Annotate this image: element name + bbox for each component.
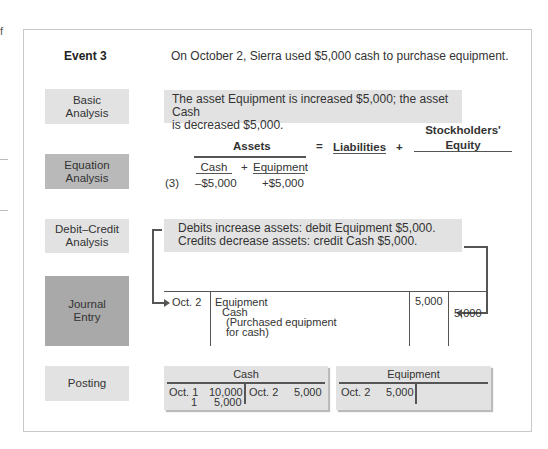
liabilities-header: Liabilities (333, 141, 386, 154)
equipment-change-value: +$5,000 (262, 177, 304, 189)
debit-credit-analysis-text: Debits increase assets: debit Equipment … (164, 219, 462, 252)
transaction-ref: (3) (165, 177, 179, 189)
cash-change-value: –$5,000 (195, 177, 237, 189)
edge-divider (0, 210, 8, 211)
cash-credit-date: Oct. 2 (249, 387, 278, 398)
equals-sign: = (316, 140, 323, 152)
posting-label: Posting (45, 366, 129, 401)
equity-header-line2: Equity (414, 139, 512, 152)
basic-analysis-text: The asset Equipment is increased $5,000;… (164, 90, 462, 123)
cash-credit-amount: 5,000 (294, 387, 322, 398)
cash-debit-amount: 5,000 (214, 397, 242, 408)
t-account-rule (339, 382, 488, 384)
debit-credit-analysis-label: Debit–CreditAnalysis (45, 219, 129, 253)
equity-header-line1: Stockholders' (414, 124, 512, 136)
journal-debit-divider (409, 291, 410, 346)
journal-date-divider (210, 291, 211, 346)
asset-plus-sign: + (241, 161, 248, 173)
cash-debit-date: 1 (191, 397, 197, 408)
journal-credit-amount: 5,000 (454, 308, 482, 319)
plus-sign: + (396, 141, 403, 153)
event-title: Event 3 (64, 49, 107, 63)
event-description: On October 2, Sierra used $5,000 cash to… (171, 49, 509, 63)
equipment-debit-amount: 5,000 (386, 387, 414, 398)
equipment-debit-date: Oct. 2 (341, 387, 370, 398)
credit-flow-top (464, 246, 488, 248)
journal-debit-amount: 5,000 (415, 296, 443, 307)
journal-top-rule (164, 291, 486, 292)
basic-analysis-label: BasicAnalysis (45, 89, 129, 124)
equipment-t-account: Equipment Oct. 2 5,000 (336, 366, 491, 410)
debit-flow-vertical (152, 232, 154, 303)
journal-date: Oct. 2 (172, 297, 201, 308)
arrow-right-icon (164, 299, 170, 307)
t-account-rule (167, 382, 325, 384)
edge-divider (0, 159, 8, 160)
equipment-account-title: Equipment (336, 368, 491, 380)
journal-entry-label: JournalEntry (45, 276, 129, 346)
equation-analysis-label: EquationAnalysis (45, 154, 129, 189)
journal-credit-divider (448, 291, 449, 346)
assets-underline (194, 156, 306, 158)
t-account-divider (244, 382, 246, 404)
cash-column-header: Cash (196, 161, 232, 174)
cash-t-account: Cash Oct. 1 10,000 1 5,000 Oct. 2 5,000 (164, 366, 328, 410)
cash-account-title: Cash (164, 368, 328, 380)
credit-flow-vertical (486, 247, 488, 313)
equipment-column-header: Equipment (253, 161, 305, 174)
assets-header: Assets (233, 140, 271, 152)
journal-explanation-line2: for cash) (226, 327, 269, 338)
t-account-divider (415, 382, 417, 404)
page-edge-fragment: f (0, 25, 3, 37)
